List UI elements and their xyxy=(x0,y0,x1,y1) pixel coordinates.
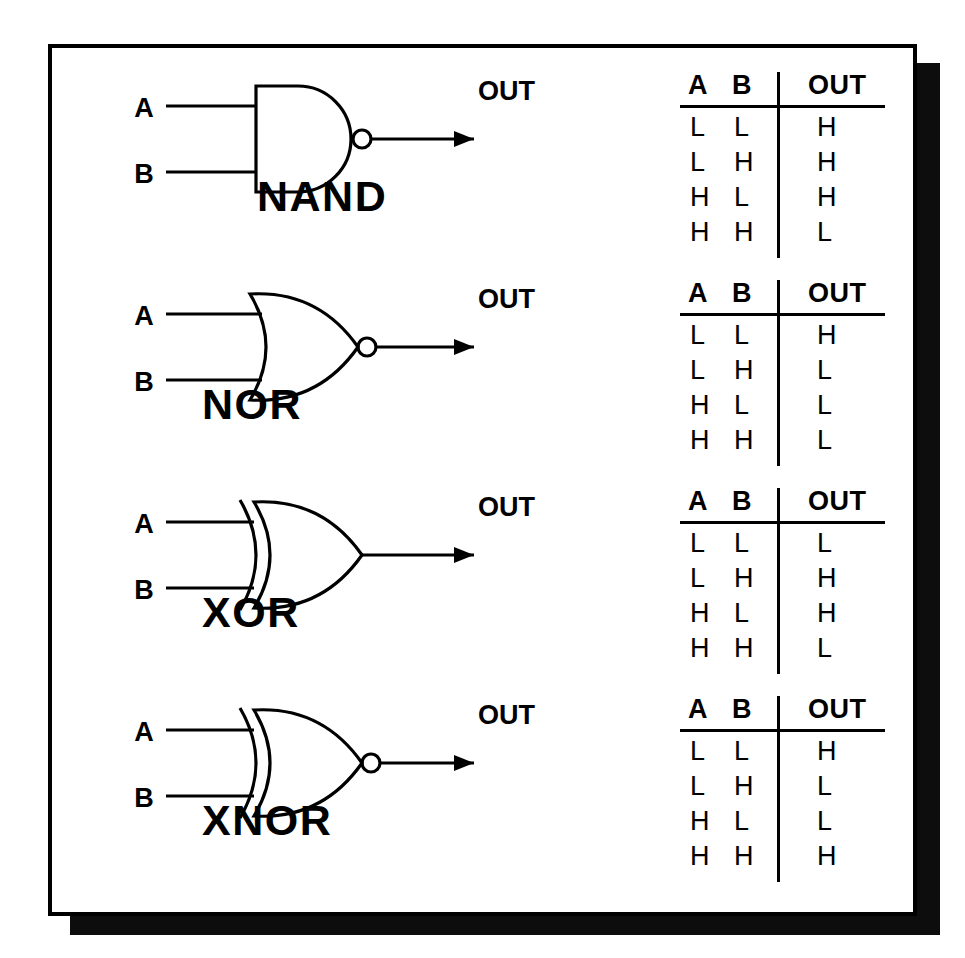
cell-a: H xyxy=(690,598,710,629)
truth-table-nand: A B OUT L L H L H H xyxy=(680,70,895,260)
cell-out: L xyxy=(817,390,832,421)
inversion-bubble xyxy=(353,130,371,148)
cell-a: L xyxy=(690,112,705,143)
table-row: L L H xyxy=(680,320,885,355)
header-underline xyxy=(680,729,885,732)
cell-a: L xyxy=(690,736,705,767)
cell-b: H xyxy=(734,771,754,802)
table-row: H L H xyxy=(680,182,885,217)
gate-row-nor: A B OUT NOR A B OUT L L H xyxy=(52,268,921,476)
input-label-a: A xyxy=(134,509,154,539)
cell-a: H xyxy=(690,390,710,421)
cell-out: L xyxy=(817,355,832,386)
cell-b: L xyxy=(734,390,749,421)
cell-a: H xyxy=(690,217,710,248)
cell-b: H xyxy=(734,217,754,248)
table-row: L H H xyxy=(680,563,885,598)
table-row: H H L xyxy=(680,633,885,668)
cell-out: L xyxy=(817,771,832,802)
input-label-a: A xyxy=(134,93,154,123)
header-a: A xyxy=(688,278,708,309)
header-a: A xyxy=(688,486,708,517)
cell-out: L xyxy=(817,425,832,456)
header-b: B xyxy=(732,278,752,309)
table-row: H H L xyxy=(680,425,885,460)
cell-b: L xyxy=(734,320,749,351)
cell-b: L xyxy=(734,112,749,143)
input-label-b: B xyxy=(134,575,154,605)
header-underline xyxy=(680,313,885,316)
output-label: OUT xyxy=(478,76,536,106)
gate-row-nand: A B OUT NAND A B OUT L L H xyxy=(52,60,921,268)
cell-b: L xyxy=(734,182,749,213)
cell-out: H xyxy=(817,563,837,594)
output-label: OUT xyxy=(478,492,536,522)
cell-b: H xyxy=(734,147,754,178)
table-row: H H L xyxy=(680,217,885,252)
gate-row-xor: A B OUT XOR A B OUT L L L xyxy=(52,476,921,684)
inversion-bubble xyxy=(362,754,380,772)
input-label-a: A xyxy=(134,717,154,747)
input-label-b: B xyxy=(134,783,154,813)
cell-a: H xyxy=(690,425,710,456)
header-b: B xyxy=(732,486,752,517)
cell-b: H xyxy=(734,633,754,664)
truth-table-xnor: A B OUT L L H L H L xyxy=(680,694,895,884)
output-arrowhead xyxy=(454,755,474,771)
gate-symbol-xnor: A B OUT xyxy=(122,684,562,844)
header-a: A xyxy=(688,70,708,101)
header-underline xyxy=(680,105,885,108)
cell-a: L xyxy=(690,528,705,559)
table-row: L H H xyxy=(680,147,885,182)
cell-out: L xyxy=(817,806,832,837)
header-out: OUT xyxy=(808,70,867,101)
cell-a: L xyxy=(690,320,705,351)
table-row: L H L xyxy=(680,355,885,390)
truth-table-header-row: A B OUT xyxy=(680,486,885,518)
truth-table-header-row: A B OUT xyxy=(680,278,885,310)
input-label-a: A xyxy=(134,301,154,331)
truth-table-nor: A B OUT L L H L H L xyxy=(680,278,895,468)
cell-b: L xyxy=(734,598,749,629)
input-label-b: B xyxy=(134,367,154,397)
header-b: B xyxy=(732,694,752,725)
cell-b: L xyxy=(734,736,749,767)
table-row: H L H xyxy=(680,598,885,633)
cell-out: H xyxy=(817,182,837,213)
gate-row-xnor: A B OUT XNOR A B OUT L L H xyxy=(52,684,921,892)
header-out: OUT xyxy=(808,694,867,725)
gate-name-xnor: XNOR xyxy=(202,796,332,845)
output-arrowhead xyxy=(454,339,474,355)
header-underline xyxy=(680,521,885,524)
table-row: H H H xyxy=(680,841,885,876)
cell-a: L xyxy=(690,355,705,386)
cell-a: H xyxy=(690,633,710,664)
cell-a: L xyxy=(690,771,705,802)
cell-b: H xyxy=(734,563,754,594)
cell-out: H xyxy=(817,841,837,872)
cell-b: H xyxy=(734,355,754,386)
truth-table-xor: A B OUT L L L L H H xyxy=(680,486,895,676)
table-row: L L L xyxy=(680,528,885,563)
gate-symbol-nor: A B OUT xyxy=(122,268,562,428)
cell-a: L xyxy=(690,563,705,594)
cell-out: L xyxy=(817,217,832,248)
cell-b: L xyxy=(734,528,749,559)
cell-out: H xyxy=(817,736,837,767)
cell-out: H xyxy=(817,598,837,629)
cell-out: H xyxy=(817,112,837,143)
diagram-page: A B OUT NAND A B OUT L L H xyxy=(48,44,917,916)
header-a: A xyxy=(688,694,708,725)
gate-name-nor: NOR xyxy=(202,380,302,429)
header-b: B xyxy=(732,70,752,101)
gate-symbol-xor: A B OUT xyxy=(122,476,562,636)
cell-b: L xyxy=(734,806,749,837)
table-row: L L H xyxy=(680,112,885,147)
table-row: L L H xyxy=(680,736,885,771)
table-row: H L L xyxy=(680,806,885,841)
gate-name-nand: NAND xyxy=(257,172,387,221)
output-arrowhead xyxy=(454,547,474,563)
cell-out: L xyxy=(817,633,832,664)
cell-a: H xyxy=(690,841,710,872)
cell-out: H xyxy=(817,320,837,351)
